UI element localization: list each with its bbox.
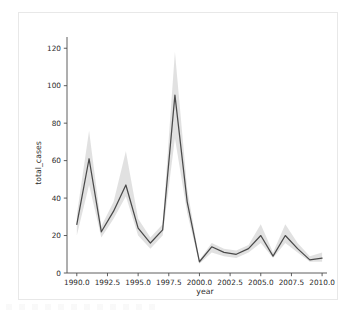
y-tick-label: 60 (52, 156, 62, 165)
x-tick-label: 2005.0 (248, 278, 274, 287)
y-tick-label: 100 (47, 81, 61, 90)
confidence-interval-band (77, 52, 322, 264)
x-tick-label: 1997.5 (156, 278, 182, 287)
ci-band-path (77, 52, 322, 264)
y-tick-label: 20 (52, 231, 62, 240)
page-artifact-strip (6, 304, 156, 310)
x-tick-label: 2002.5 (217, 278, 243, 287)
series-line-path (77, 95, 322, 262)
y-tick-label: 0 (56, 269, 61, 278)
x-tick-label: 1995.0 (125, 278, 151, 287)
x-tick-label: 1992.5 (95, 278, 121, 287)
x-axis-label: year (196, 287, 214, 296)
x-tick-label: 2007.5 (279, 278, 305, 287)
x-tick-label: 2000.0 (187, 278, 213, 287)
series-line (77, 95, 322, 262)
y-axis-ticks: 020406080100120 (47, 44, 67, 278)
y-tick-label: 40 (52, 194, 62, 203)
x-tick-label: 1990.0 (64, 278, 90, 287)
y-tick-label: 120 (47, 44, 61, 53)
figure-frame: 1990.01992.51995.01997.52000.02002.52005… (18, 12, 338, 300)
line-chart: 1990.01992.51995.01997.52000.02002.52005… (19, 13, 339, 301)
x-tick-label: 2010.0 (309, 278, 335, 287)
y-axis-label: total_cases (34, 141, 43, 185)
y-tick-label: 80 (52, 119, 62, 128)
x-axis-ticks: 1990.01992.51995.01997.52000.02002.52005… (64, 273, 335, 287)
